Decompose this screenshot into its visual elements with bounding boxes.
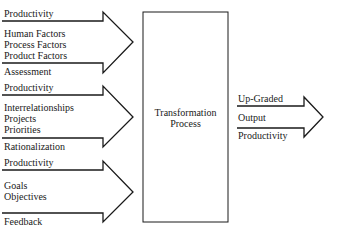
input-1-line-1: Human Factors bbox=[4, 28, 65, 39]
input-3-line-2: Objectives bbox=[4, 191, 47, 202]
input-1-bottom-label: Assessment bbox=[4, 66, 51, 77]
output-bottom-label: Productivity bbox=[238, 130, 287, 141]
input-1-top-label: Productivity bbox=[4, 8, 53, 19]
input-1-line-2: Process Factors bbox=[4, 39, 67, 50]
input-2-line-1: Interrelationships bbox=[4, 102, 74, 113]
process-title: Transformation Process bbox=[143, 107, 228, 129]
input-2-line-2: Projects bbox=[4, 113, 36, 124]
input-2-bottom-label: Rationalization bbox=[4, 141, 65, 152]
output-top-label: Up-Graded bbox=[238, 93, 283, 104]
input-3-line-1: Goals bbox=[4, 180, 27, 191]
input-3-bottom-label: Feedback bbox=[4, 216, 42, 227]
input-2-line-3: Priorities bbox=[4, 124, 41, 135]
process-line-1: Transformation bbox=[143, 107, 228, 118]
process-line-2: Process bbox=[143, 118, 228, 129]
input-1-line-3: Product Factors bbox=[4, 50, 67, 61]
input-2-top-label: Productivity bbox=[4, 82, 53, 93]
input-3-top-label: Productivity bbox=[4, 157, 53, 168]
output-middle-label: Output bbox=[238, 112, 266, 123]
